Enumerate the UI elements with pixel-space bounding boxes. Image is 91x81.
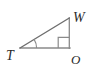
vertex-label-O: O — [71, 52, 81, 67]
angle-arc-marker-icon — [34, 39, 37, 48]
triangle-diagram-svg: T W O — [0, 0, 91, 81]
vertex-label-W: W — [73, 10, 86, 25]
vertex-label-T: T — [6, 48, 15, 63]
geometry-figure: T W O — [0, 0, 91, 81]
edge-hypotenuse-TW — [20, 18, 69, 48]
right-angle-marker-icon — [58, 37, 69, 48]
